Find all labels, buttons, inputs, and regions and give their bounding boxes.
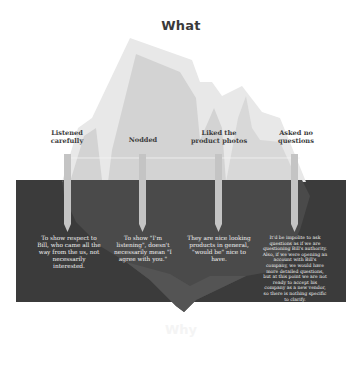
what-label-liked-photos: Liked the product photos — [182, 129, 256, 145]
what-label-asked-no-questions: Asked no questions — [270, 129, 322, 145]
why-text-listened: To show respect to Bill, who came all th… — [36, 235, 102, 270]
pillar-2 — [139, 154, 146, 232]
why-text-nodded: To show "I'm listening", doesn't necessa… — [111, 235, 175, 263]
pillar-4 — [291, 154, 298, 232]
iceberg-shapes — [0, 0, 362, 370]
what-label-nodded: Nodded — [118, 136, 168, 144]
title-why: Why — [0, 322, 362, 337]
pillar-1 — [64, 154, 71, 232]
what-label-listened: Listened carefully — [42, 129, 92, 145]
iceberg-diagram: What Listened carefully N — [0, 0, 362, 370]
why-text-asked-no-questions: It'd be impolite to ask questions as if … — [262, 235, 328, 302]
pillar-3 — [215, 154, 222, 232]
why-text-liked-photos: They are nice looking products in genera… — [186, 235, 252, 263]
